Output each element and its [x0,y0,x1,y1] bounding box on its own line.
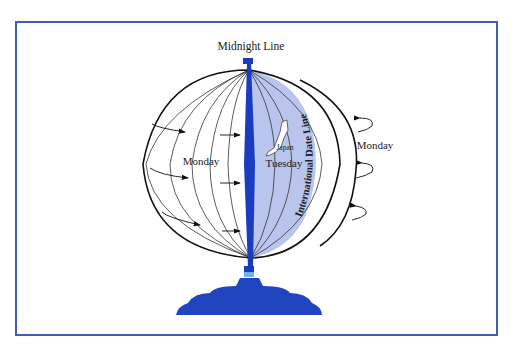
monday-right-label: Monday [357,139,394,151]
midnight-line-bottom-cap [244,266,254,272]
japan-label: Japan [276,143,293,152]
pedestal-joint [244,272,254,277]
midnight-line-top-cap [243,58,253,64]
tuesday-label: Tuesday [266,157,303,169]
globe-pedestal [176,278,322,315]
midnight-line-label: Midnight Line [218,40,285,53]
globe-diagram: Midnight Line Monday Tuesday Japan Monda… [0,0,514,349]
monday-left-label: Monday [183,155,220,167]
